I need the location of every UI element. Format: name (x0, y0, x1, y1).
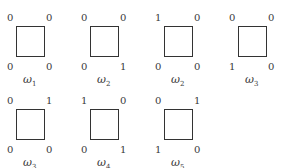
corner-value-tr: 0 (46, 13, 52, 23)
corner-value-br: 0 (46, 62, 52, 72)
square-figure: 1001ω4 (75, 89, 139, 168)
omega-symbol: ω (171, 73, 180, 86)
omega-symbol: ω (23, 156, 32, 168)
label-subscript: 3 (254, 80, 258, 88)
omega-symbol: ω (97, 73, 106, 86)
corner-value-br: 0 (46, 145, 52, 155)
figure-label: ω3 (245, 73, 258, 88)
square-figure: 0000ω1 (1, 6, 65, 86)
figure-label: ω3 (23, 156, 36, 168)
corner-value-bl: 0 (7, 145, 13, 155)
corner-value-br: 0 (194, 62, 200, 72)
square-figure: 0110ω5 (149, 89, 213, 168)
corner-value-tr: 0 (194, 13, 200, 23)
square-shape (238, 26, 267, 57)
corner-value-bl: 0 (81, 62, 87, 72)
corner-value-br: 1 (120, 145, 126, 155)
corner-value-tl: 0 (7, 96, 13, 106)
square-shape (90, 109, 119, 140)
corner-value-tl: 0 (81, 13, 87, 23)
square-figure: 0001ω2 (75, 6, 139, 86)
corner-value-bl: 0 (81, 145, 87, 155)
square-figure: 1000ω2 (149, 6, 213, 86)
corner-value-tl: 0 (229, 13, 235, 23)
figure-label: ω1 (23, 73, 36, 88)
corner-value-br: 0 (194, 145, 200, 155)
square-figure: 0100ω3 (1, 89, 65, 168)
omega-symbol: ω (23, 73, 32, 86)
corner-value-br: 0 (268, 62, 274, 72)
square-shape (164, 109, 193, 140)
corner-value-br: 1 (120, 62, 126, 72)
square-shape (16, 26, 45, 57)
square-shape (164, 26, 193, 57)
corner-value-bl: 0 (7, 62, 13, 72)
corner-value-tr: 0 (268, 13, 274, 23)
corner-value-tl: 1 (155, 13, 161, 23)
figure-label: ω5 (171, 156, 184, 168)
square-shape (16, 109, 45, 140)
omega-symbol: ω (97, 156, 106, 168)
corner-value-tr: 0 (120, 13, 126, 23)
label-subscript: 2 (180, 80, 184, 88)
label-subscript: 1 (32, 80, 36, 88)
square-shape (90, 26, 119, 57)
corner-value-bl: 1 (155, 145, 161, 155)
corner-value-bl: 1 (229, 62, 235, 72)
corner-value-tl: 0 (155, 96, 161, 106)
corner-value-tr: 0 (120, 96, 126, 106)
figure-label: ω2 (171, 73, 184, 88)
figure-label: ω2 (97, 73, 110, 88)
omega-symbol: ω (245, 73, 254, 86)
omega-symbol: ω (171, 156, 180, 168)
label-subscript: 2 (106, 80, 110, 88)
figure-label: ω4 (97, 156, 110, 168)
corner-value-tr: 1 (194, 96, 200, 106)
corner-value-tl: 0 (7, 13, 13, 23)
label-subscript: 4 (106, 163, 110, 168)
label-subscript: 5 (180, 163, 184, 168)
corner-value-tl: 1 (81, 96, 87, 106)
corner-value-bl: 0 (155, 62, 161, 72)
label-subscript: 3 (32, 163, 36, 168)
corner-value-tr: 1 (46, 96, 52, 106)
square-figure: 0010ω3 (223, 6, 281, 86)
